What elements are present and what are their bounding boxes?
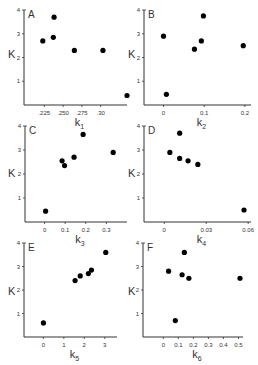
data-point bbox=[177, 131, 182, 136]
panel-letter: D bbox=[148, 125, 155, 136]
x-tick-label: 0.1 bbox=[174, 342, 183, 348]
x-tick-label: .250 bbox=[57, 110, 69, 116]
panel-d: 123400.030.06DKk4 bbox=[128, 123, 255, 247]
x-tick-label: 0 bbox=[163, 227, 167, 233]
data-point bbox=[62, 163, 67, 168]
y-tick-label: 1 bbox=[136, 311, 140, 317]
data-point bbox=[59, 158, 64, 163]
y-tick-label: 3 bbox=[17, 264, 21, 270]
y-tick-label: 3 bbox=[137, 147, 141, 153]
x-axis-label: k3 bbox=[75, 233, 85, 247]
x-tick-label: 0.5 bbox=[234, 342, 243, 348]
y-tick-label: 1 bbox=[17, 78, 21, 84]
data-point bbox=[167, 150, 172, 155]
figure-canvas: 1234.225.250.275.30AKk1123400.10.2BKk212… bbox=[0, 0, 258, 365]
y-tick-label: 2 bbox=[137, 171, 141, 177]
x-axis-label: k4 bbox=[197, 233, 207, 247]
data-point bbox=[78, 273, 83, 278]
y-axis-label: K bbox=[128, 167, 136, 179]
data-point bbox=[173, 318, 178, 323]
y-tick-label: 4 bbox=[17, 7, 21, 13]
axis-lines bbox=[144, 126, 251, 222]
data-point bbox=[100, 48, 105, 53]
y-tick-label: 4 bbox=[137, 7, 141, 13]
panel-b: 123400.10.2BKk2 bbox=[128, 7, 251, 130]
data-point bbox=[201, 13, 206, 18]
data-point bbox=[40, 38, 45, 43]
panel-letter: F bbox=[147, 242, 153, 253]
y-tick-label: 3 bbox=[136, 264, 140, 270]
y-axis-label: K bbox=[128, 48, 136, 60]
panel-f: 123400.10.20.30.40.5FKk6 bbox=[128, 240, 243, 362]
data-point bbox=[241, 207, 246, 212]
data-point bbox=[51, 15, 56, 20]
y-axis-label: K bbox=[128, 285, 136, 297]
scatter-figure-grid: 1234.225.250.275.30AKk1123400.10.2BKk212… bbox=[0, 0, 258, 365]
x-tick-label: 0 bbox=[42, 342, 46, 348]
data-point bbox=[199, 38, 204, 43]
data-point bbox=[161, 34, 166, 39]
x-tick-label: 0.06 bbox=[242, 227, 254, 233]
panel-letter: A bbox=[28, 9, 35, 20]
data-point bbox=[237, 276, 242, 281]
data-point bbox=[41, 320, 46, 325]
data-point bbox=[72, 278, 77, 283]
x-tick-label: .225 bbox=[38, 110, 50, 116]
x-tick-label: 3 bbox=[103, 342, 107, 348]
data-point bbox=[89, 267, 94, 272]
x-tick-label: 2 bbox=[83, 342, 87, 348]
data-point bbox=[72, 48, 77, 53]
y-tick-label: 4 bbox=[137, 123, 141, 129]
y-tick-label: 2 bbox=[18, 171, 22, 177]
panel-e: 12340123EKk5 bbox=[8, 240, 117, 362]
data-point bbox=[51, 35, 56, 40]
axis-lines bbox=[143, 243, 243, 337]
data-point bbox=[164, 92, 169, 97]
data-point bbox=[103, 250, 108, 255]
y-axis-label: K bbox=[8, 285, 16, 297]
y-tick-label: 2 bbox=[17, 55, 21, 61]
x-tick-label: .30 bbox=[97, 110, 106, 116]
data-point bbox=[166, 269, 171, 274]
x-tick-label: 0.2 bbox=[82, 227, 91, 233]
data-point bbox=[192, 47, 197, 52]
data-point bbox=[179, 272, 184, 277]
panel-letter: E bbox=[28, 242, 35, 253]
y-tick-label: 1 bbox=[18, 195, 22, 201]
axis-lines bbox=[144, 10, 251, 105]
data-point bbox=[177, 156, 182, 161]
y-tick-label: 4 bbox=[17, 240, 21, 246]
y-axis-label: K bbox=[8, 48, 16, 60]
x-tick-label: 0 bbox=[162, 110, 166, 116]
panel-letter: B bbox=[148, 9, 155, 20]
x-tick-label: 0.3 bbox=[102, 227, 111, 233]
data-point bbox=[186, 276, 191, 281]
x-axis-label: k5 bbox=[70, 348, 80, 362]
data-point bbox=[124, 93, 129, 98]
y-tick-label: 4 bbox=[18, 123, 22, 129]
panel-c: 123400.10.20.3CKk3 bbox=[8, 123, 127, 247]
x-tick-label: 0 bbox=[162, 342, 166, 348]
y-tick-label: 4 bbox=[136, 240, 140, 246]
x-tick-label: 0.3 bbox=[204, 342, 213, 348]
y-tick-label: 2 bbox=[17, 287, 21, 293]
x-tick-label: 1 bbox=[62, 342, 66, 348]
data-point bbox=[81, 132, 86, 137]
x-tick-label: 0.4 bbox=[219, 342, 228, 348]
panel-a: 1234.225.250.275.30AKk1 bbox=[8, 7, 130, 130]
data-point bbox=[195, 162, 200, 167]
data-point bbox=[185, 158, 190, 163]
data-point bbox=[71, 155, 76, 160]
axis-lines bbox=[24, 10, 127, 105]
x-axis-label: k6 bbox=[192, 348, 202, 362]
data-point bbox=[241, 43, 246, 48]
data-point bbox=[43, 209, 48, 214]
y-tick-label: 3 bbox=[137, 31, 141, 37]
y-tick-label: 2 bbox=[136, 287, 140, 293]
y-tick-label: 2 bbox=[137, 55, 141, 61]
axis-lines bbox=[25, 126, 127, 222]
panel-letter: C bbox=[29, 125, 36, 136]
y-tick-label: 1 bbox=[137, 78, 141, 84]
y-tick-label: 1 bbox=[17, 311, 21, 317]
axis-lines bbox=[24, 243, 117, 337]
